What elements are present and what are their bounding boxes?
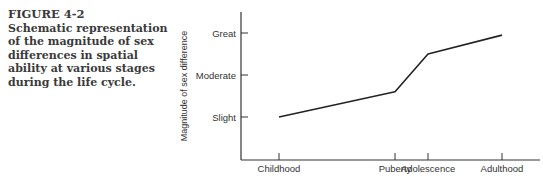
y-tick-label: Moderate [196,70,236,81]
x-tick-label: Adulthood [481,163,524,174]
x-tick-label: Childhood [258,163,301,174]
y-tick-label: Great [212,28,236,39]
line-chart: SlightModerateGreatChildhoodPubertyAdole… [0,0,543,179]
y-tick-label: Slight [212,112,236,123]
series-line [279,35,502,117]
x-tick-label: Adolescence [401,163,455,174]
y-axis-title: Magnitude of sex difference [179,31,189,141]
